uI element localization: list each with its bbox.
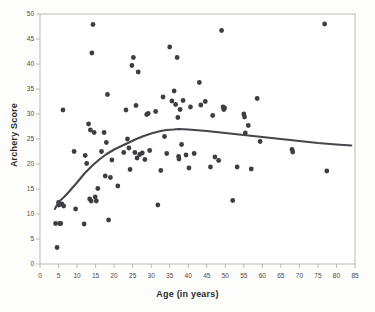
y-axis-tick-labels: 05101520253035404550 (27, 10, 35, 267)
data-point (324, 169, 329, 174)
data-point (216, 158, 221, 163)
data-point (155, 203, 160, 208)
data-point (175, 55, 180, 60)
data-point (161, 95, 166, 100)
y-tick-label: 25 (27, 135, 35, 142)
data-point (177, 157, 182, 162)
x-tick-label: 35 (166, 272, 174, 279)
x-axis-ticks (40, 264, 355, 268)
x-tick-label: 30 (148, 272, 156, 279)
data-point (158, 168, 163, 173)
data-point (89, 199, 94, 204)
x-tick-label: 0 (38, 272, 42, 279)
x-tick-label: 40 (185, 272, 193, 279)
data-point (83, 153, 88, 158)
data-point (230, 198, 235, 203)
data-point (170, 99, 175, 104)
data-point (249, 167, 254, 172)
data-point (142, 157, 147, 162)
data-point (61, 108, 66, 113)
data-point (58, 221, 63, 226)
data-point (55, 245, 60, 250)
data-point (192, 151, 197, 156)
data-point (108, 175, 113, 180)
data-point (146, 111, 151, 116)
data-point (103, 174, 108, 179)
data-point (121, 150, 126, 155)
y-tick-label: 0 (30, 260, 34, 267)
x-tick-label: 50 (222, 272, 230, 279)
y-tick-label: 20 (27, 160, 35, 167)
x-tick-label: 70 (296, 272, 304, 279)
x-axis-tick-labels: 0510152025303540455055606570758085 (38, 272, 359, 279)
data-point (222, 106, 227, 111)
data-point (134, 103, 139, 108)
y-tick-label: 35 (27, 85, 35, 92)
data-point (188, 105, 193, 110)
data-point (147, 148, 152, 153)
data-point (82, 222, 87, 227)
data-point (203, 99, 208, 104)
data-point (290, 150, 295, 155)
data-point (255, 96, 260, 101)
data-point (164, 151, 169, 156)
data-point (125, 137, 130, 142)
data-point (61, 204, 66, 209)
data-point (130, 63, 135, 68)
y-axis-ticks (36, 14, 40, 264)
data-point (208, 165, 213, 170)
data-point (210, 113, 215, 118)
y-axis-title: Archery Score (9, 75, 19, 195)
data-point (72, 149, 77, 154)
data-point (162, 134, 167, 139)
data-point (115, 184, 120, 189)
x-tick-label: 60 (259, 272, 267, 279)
data-point (95, 186, 100, 191)
x-tick-label: 65 (277, 272, 285, 279)
y-tick-label: 50 (27, 10, 35, 17)
x-axis-title: Age (in years) (0, 289, 375, 299)
y-tick-label: 45 (27, 35, 35, 42)
data-point (258, 139, 263, 144)
data-point (178, 107, 183, 112)
data-point (109, 158, 114, 163)
data-point (84, 161, 89, 166)
data-point (131, 55, 136, 60)
data-point (99, 149, 104, 154)
x-tick-label: 80 (333, 272, 341, 279)
data-point (91, 22, 96, 27)
data-point (173, 102, 178, 107)
data-point (89, 51, 94, 56)
data-point (187, 166, 192, 171)
data-point (235, 165, 240, 170)
data-point (198, 103, 203, 108)
x-tick-label: 55 (240, 272, 248, 279)
y-tick-label: 40 (27, 60, 35, 67)
data-point (140, 151, 145, 156)
data-point (181, 98, 186, 103)
data-point (197, 80, 202, 85)
data-point (86, 122, 91, 127)
plot-frame (40, 14, 355, 264)
data-point (53, 221, 58, 226)
data-point (246, 123, 251, 128)
x-tick-label: 15 (92, 272, 100, 279)
y-tick-label: 5 (30, 235, 34, 242)
plot-canvas: 0510152025303540455055606570758085 05101… (0, 0, 375, 312)
data-point (322, 22, 327, 27)
y-tick-label: 30 (27, 110, 35, 117)
x-tick-label: 10 (73, 272, 81, 279)
x-tick-label: 5 (57, 272, 61, 279)
x-tick-label: 25 (129, 272, 137, 279)
data-point (105, 92, 110, 97)
x-tick-label: 85 (351, 272, 359, 279)
data-point (132, 150, 137, 155)
data-point (184, 153, 189, 158)
data-point (136, 70, 141, 75)
data-point (242, 115, 247, 120)
y-tick-label: 15 (27, 185, 35, 192)
data-point (213, 155, 218, 160)
data-point (179, 142, 184, 147)
data-point (153, 109, 158, 114)
data-point (104, 140, 109, 145)
